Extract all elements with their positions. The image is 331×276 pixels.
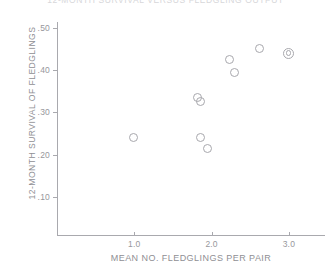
- scatter-plot-figure: 12-MONTH SURVIVAL VERSUS FLEDGLING OUTPU…: [0, 0, 331, 276]
- x-tick-label: 2.0: [197, 239, 227, 249]
- x-tick-mark: [289, 232, 290, 236]
- y-tick-mark: [53, 155, 57, 156]
- x-tick-mark: [212, 232, 213, 236]
- data-point: [255, 44, 264, 53]
- x-axis-title: MEAN NO. FLEDGLINGS PER PAIR: [57, 253, 325, 263]
- y-axis-title: 12-MONTH SURVIVAL OF FLEDGLINGS: [27, 8, 37, 218]
- y-axis-line: [57, 22, 58, 236]
- data-point: [203, 144, 212, 153]
- data-point: [196, 133, 205, 142]
- y-tick-mark: [53, 70, 57, 71]
- plot-area: .50.40.30.20.10 1.02.03.0 12-MONTH SURVI…: [0, 0, 331, 276]
- data-point: [196, 97, 205, 106]
- x-tick-mark: [134, 232, 135, 236]
- data-point: [225, 55, 234, 64]
- x-tick-label: 3.0: [274, 239, 304, 249]
- x-axis-line: [57, 235, 325, 236]
- y-tick-mark: [53, 197, 57, 198]
- data-point: [129, 133, 138, 142]
- x-tick-label: 1.0: [119, 239, 149, 249]
- data-point: [230, 68, 239, 77]
- data-point: [283, 48, 294, 59]
- y-tick-mark: [53, 28, 57, 29]
- y-tick-mark: [53, 112, 57, 113]
